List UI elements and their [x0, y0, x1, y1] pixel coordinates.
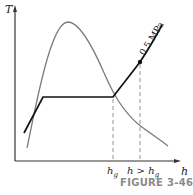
- y-axis-label: T: [5, 4, 12, 15]
- diagram-canvas: [0, 0, 193, 195]
- pressure-line: [24, 25, 162, 133]
- x-axis-label: h: [181, 166, 188, 177]
- x-axis-arrow-icon: [174, 159, 181, 163]
- t-h-diagram: T h hg h > hg 0.5 MPa FIGURE 3-46: [0, 0, 193, 195]
- figure-caption: FIGURE 3-46: [120, 178, 193, 188]
- y-axis-arrow-icon: [13, 5, 17, 12]
- tick-hg: hg: [107, 166, 118, 179]
- state-point: [138, 60, 142, 64]
